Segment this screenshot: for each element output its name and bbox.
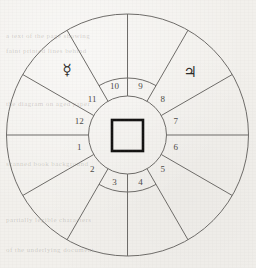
house-cusp-line	[67, 169, 108, 240]
house-number-7: 7	[174, 116, 179, 126]
house-cusp-line	[161, 155, 232, 196]
house-cusp-line	[23, 155, 94, 196]
house-cusp-line	[67, 30, 108, 101]
square-aspect-marker	[112, 120, 143, 151]
house-number-8: 8	[161, 94, 166, 104]
house-cusp-line	[147, 169, 188, 240]
house-number-4: 4	[138, 177, 143, 187]
house-number-9: 9	[138, 81, 143, 91]
house-number-2: 2	[90, 164, 95, 174]
house-wheel-diagram: 123456789101112 ☿♃	[0, 0, 256, 268]
house-cusp-line	[23, 75, 94, 116]
chart-root: a text of the page showing faint printed…	[0, 0, 256, 268]
mercury-glyph-icon: ☿	[62, 61, 71, 79]
house-cusp-line	[161, 75, 232, 116]
inner-circle	[89, 96, 167, 174]
house-cusp-line	[147, 30, 188, 101]
house-number-6: 6	[174, 142, 179, 152]
house-number-3: 3	[112, 177, 117, 187]
house-number-11: 11	[88, 94, 97, 104]
jupiter-glyph-icon: ♃	[183, 63, 196, 81]
house-number-5: 5	[161, 164, 166, 174]
house-number-10: 10	[110, 81, 120, 91]
house-number-1: 1	[77, 142, 82, 152]
house-number-12: 12	[75, 116, 84, 126]
